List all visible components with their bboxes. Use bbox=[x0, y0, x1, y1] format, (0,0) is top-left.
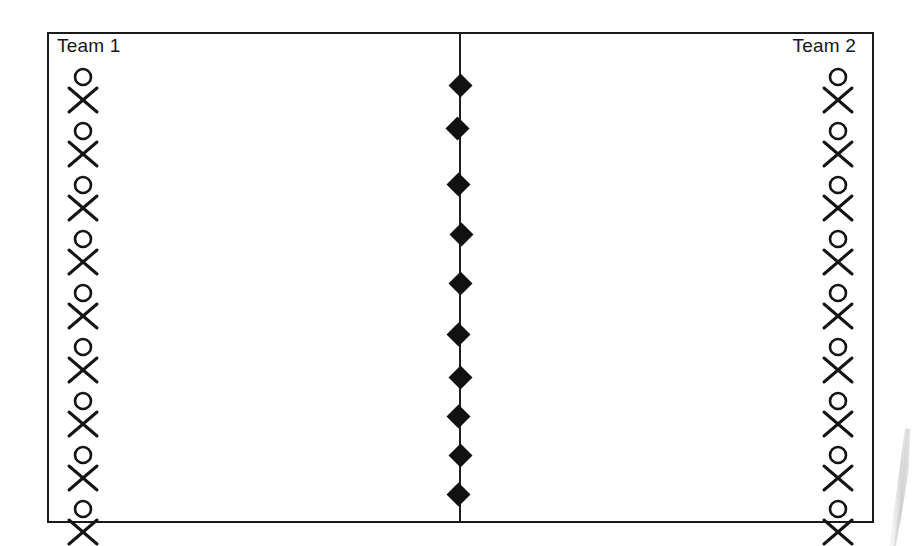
person-icon bbox=[815, 388, 861, 442]
person-icon bbox=[60, 496, 106, 546]
person-icon bbox=[60, 226, 106, 280]
person-icon bbox=[60, 388, 106, 442]
diagram-canvas: Team 1 Team 2 bbox=[0, 0, 913, 546]
person-icon bbox=[60, 118, 106, 172]
person-icon bbox=[815, 172, 861, 226]
person-icon bbox=[815, 64, 861, 118]
person-icon bbox=[815, 280, 861, 334]
person-icon bbox=[815, 118, 861, 172]
person-icon bbox=[60, 64, 106, 118]
person-icon bbox=[60, 280, 106, 334]
person-icon bbox=[60, 334, 106, 388]
person-icon bbox=[815, 226, 861, 280]
person-icon bbox=[815, 496, 861, 546]
team-1-label: Team 1 bbox=[57, 36, 121, 56]
person-icon bbox=[60, 172, 106, 226]
scan-shadow-icon bbox=[879, 428, 913, 546]
person-icon bbox=[815, 442, 861, 496]
person-icon bbox=[60, 442, 106, 496]
team-1-member-column bbox=[60, 64, 106, 546]
person-icon bbox=[815, 334, 861, 388]
team-2-label: Team 2 bbox=[792, 36, 856, 56]
team-2-member-column bbox=[815, 64, 861, 546]
